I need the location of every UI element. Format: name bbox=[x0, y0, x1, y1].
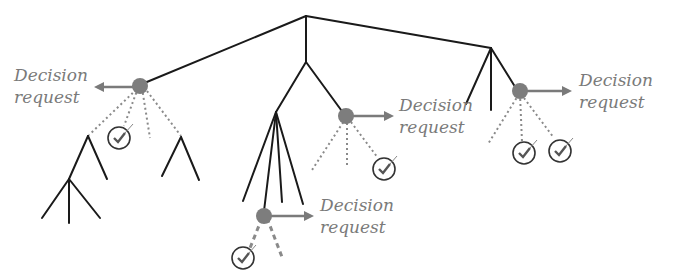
label-line2: request bbox=[579, 91, 653, 113]
decision-node-d bbox=[512, 83, 528, 99]
decision-request-label-d: Decision request bbox=[579, 69, 653, 113]
check-circle-icon bbox=[108, 124, 133, 149]
label-line1: Decision bbox=[399, 94, 473, 116]
decision-request-label-a: Decision request bbox=[14, 64, 88, 108]
check-circle-icon bbox=[232, 245, 256, 269]
decision-tree-diagram bbox=[0, 0, 674, 280]
check-circle-icon bbox=[373, 156, 397, 180]
decision-node-b bbox=[338, 108, 354, 124]
dashed-edges bbox=[89, 86, 554, 170]
decision-request-label-c: Decision request bbox=[320, 194, 394, 238]
label-line1: Decision bbox=[579, 69, 653, 91]
decision-node-c bbox=[256, 208, 272, 224]
decision-request-label-b: Decision request bbox=[399, 94, 473, 138]
label-line1: Decision bbox=[320, 194, 394, 216]
label-line2: request bbox=[399, 116, 473, 138]
label-line2: request bbox=[320, 216, 394, 238]
label-line1: Decision bbox=[14, 64, 88, 86]
dashed-edges-node-c bbox=[250, 218, 282, 257]
decision-node-a bbox=[132, 78, 148, 94]
check-circle-icon bbox=[513, 140, 537, 164]
label-line2: request bbox=[14, 86, 88, 108]
check-circle-icon bbox=[549, 138, 573, 162]
